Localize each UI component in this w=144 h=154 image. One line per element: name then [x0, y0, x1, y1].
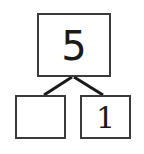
whole-value: 5	[61, 24, 86, 66]
part-right-box: 1	[80, 95, 131, 139]
part-right-value: 1	[96, 101, 115, 133]
connector-right	[74, 77, 103, 95]
connector-left	[44, 77, 72, 95]
part-left-box[interactable]	[15, 95, 66, 139]
whole-box: 5	[37, 13, 111, 77]
